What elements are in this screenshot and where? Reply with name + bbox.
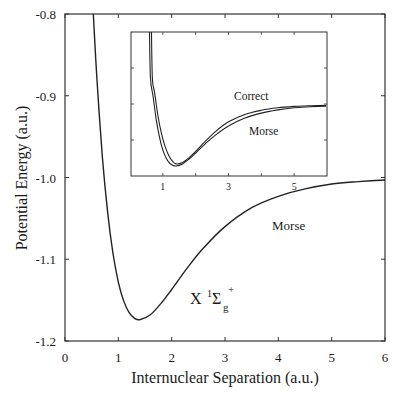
x-tick-label: 6 — [382, 350, 389, 365]
state-label-superscript-plus: + — [228, 283, 234, 295]
x-tick-label: 5 — [328, 350, 335, 365]
x-tick-label: 1 — [115, 350, 122, 365]
x-tick-label: 0 — [62, 350, 69, 365]
state-label-sigma: Σ — [212, 290, 221, 307]
inset-plot-frame — [131, 32, 327, 176]
state-label-x1sigma-g-plus: X 1 Σ g + — [190, 283, 234, 313]
y-tick-label: -1.2 — [35, 334, 56, 349]
y-tick-label: -0.8 — [35, 7, 56, 22]
y-axis-title: Potential Energy (a.u.) — [13, 106, 31, 251]
inset-tick-labels: 135 — [160, 181, 296, 192]
x-tick-label: 2 — [168, 350, 175, 365]
y-tick-label: -1.1 — [35, 252, 56, 267]
inset-x-tick-label: 3 — [226, 181, 231, 192]
potential-energy-chart: 0123456-0.8-0.9-1.0-1.1-1.2 135 Correct … — [0, 0, 399, 393]
morse-curve-label: Morse — [272, 218, 305, 233]
x-tick-label: 4 — [275, 350, 282, 365]
state-label-subscript-g: g — [223, 301, 229, 313]
inset-morse-label: Morse — [249, 125, 278, 137]
state-label-x: X — [190, 290, 202, 307]
inset-x-tick-label: 5 — [292, 181, 297, 192]
y-tick-label: -1.0 — [35, 171, 56, 186]
x-axis-title: Internuclear Separation (a.u.) — [131, 369, 318, 387]
inset-x-tick-label: 1 — [160, 181, 165, 192]
inset-correct-label: Correct — [234, 90, 269, 102]
x-tick-label: 3 — [222, 350, 229, 365]
y-tick-label: -0.9 — [35, 89, 56, 104]
